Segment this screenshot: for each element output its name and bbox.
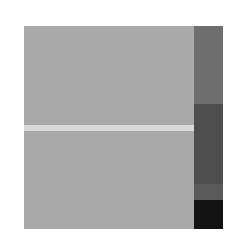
light-horizontal-stripe: [24, 125, 194, 131]
grayscale-side-bar: [194, 26, 223, 229]
side-bar-segment: [194, 184, 223, 200]
side-bar-segment: [194, 26, 223, 104]
side-bar-segment: [194, 104, 223, 184]
side-bar-segment: [194, 200, 223, 229]
graphic-canvas: [0, 0, 232, 247]
